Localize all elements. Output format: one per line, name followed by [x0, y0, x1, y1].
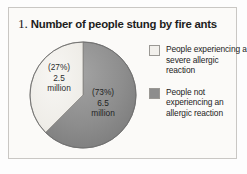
pie-label-no-reaction-percent: (73%) — [75, 87, 131, 98]
pie-chart: (27%) 2.5 million (73%) 6.5 million — [23, 35, 143, 155]
legend-label-no-reaction: People not experiencing an allergic reac… — [166, 87, 247, 119]
legend-label-severe-reaction: People experiencing a severe allergic re… — [166, 44, 247, 76]
pie-label-severe-value: 2.5 — [31, 73, 87, 84]
legend-item-severe-reaction: People experiencing a severe allergic re… — [149, 44, 247, 76]
title-number: 1. — [18, 16, 28, 32]
legend-swatch-severe-reaction — [149, 45, 160, 56]
pie-label-no-reaction: (73%) 6.5 million — [75, 87, 131, 119]
legend-item-no-reaction: People not experiencing an allergic reac… — [149, 87, 247, 119]
pie-label-severe-percent: (27%) — [31, 62, 87, 73]
pie-label-no-reaction-unit: million — [75, 108, 131, 119]
title-text: Number of people stung by fire ants — [31, 18, 217, 30]
figure-root: 1. Number of people stung by fire ants — [0, 0, 247, 174]
pie-label-no-reaction-value: 6.5 — [75, 98, 131, 109]
chart-legend: People experiencing a severe allergic re… — [149, 44, 247, 130]
figure-card: 1. Number of people stung by fire ants — [8, 7, 237, 159]
page-title: 1. Number of people stung by fire ants — [18, 16, 232, 34]
legend-swatch-no-reaction — [149, 88, 160, 99]
